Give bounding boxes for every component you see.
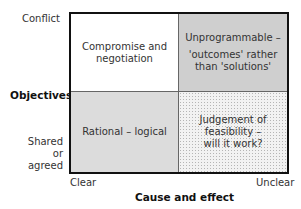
quadrant-text: Unprogrammable –: [185, 32, 281, 44]
quadrant-text: Judgement of: [199, 114, 266, 126]
y-bottom-label-line: or: [20, 148, 63, 160]
quadrant-text: feasibility –: [199, 126, 266, 138]
quadrant-top-right: Unprogrammable – 'outcomes' rather than …: [179, 14, 287, 92]
y-axis-title: Objectives: [10, 89, 72, 101]
quadrant-bottom-right: Judgement of feasibility – will it work?: [179, 92, 287, 172]
quadrant-top-left: Compromise and negotiation: [71, 14, 179, 92]
quadrant-text: 'outcomes' rather: [185, 49, 281, 61]
y-bottom-label-shared: Shared or agreed: [20, 136, 63, 172]
x-axis-title: Cause and effect: [135, 191, 234, 203]
quadrant-bottom-left: Rational – logical: [71, 92, 179, 172]
quadrant-text: than 'solutions': [185, 61, 281, 73]
quadrant-text: will it work?: [199, 138, 266, 150]
x-left-label-clear: Clear: [70, 177, 96, 189]
y-bottom-label-line: Shared: [20, 136, 63, 148]
quadrant-text: negotiation: [82, 53, 167, 65]
x-right-label-unclear: Unclear: [256, 177, 294, 189]
quadrant-text: Compromise and: [82, 41, 167, 53]
y-top-label-conflict: Conflict: [22, 13, 60, 25]
quadrant-text: Rational – logical: [82, 126, 167, 138]
matrix-grid: Compromise and negotiation Unprogrammabl…: [69, 12, 289, 174]
y-bottom-label-line: agreed: [20, 160, 63, 172]
